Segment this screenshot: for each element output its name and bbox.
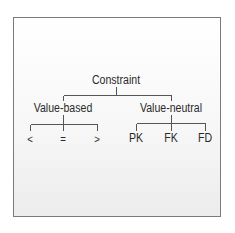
node-pk: PK: [129, 131, 143, 145]
node-constraint: Constraint: [92, 73, 140, 87]
node-fd: FD: [198, 131, 212, 145]
node-equals: =: [60, 132, 66, 146]
node-greater-than: >: [94, 132, 100, 146]
node-value-neutral: Value-neutral: [140, 101, 202, 115]
node-fk: FK: [164, 131, 178, 145]
constraint-tree: Constraint Value-based Value-neutral < =…: [0, 0, 235, 233]
tree-connectors: [0, 0, 235, 233]
node-value-based: Value-based: [34, 101, 93, 115]
node-less-than: <: [27, 132, 33, 146]
